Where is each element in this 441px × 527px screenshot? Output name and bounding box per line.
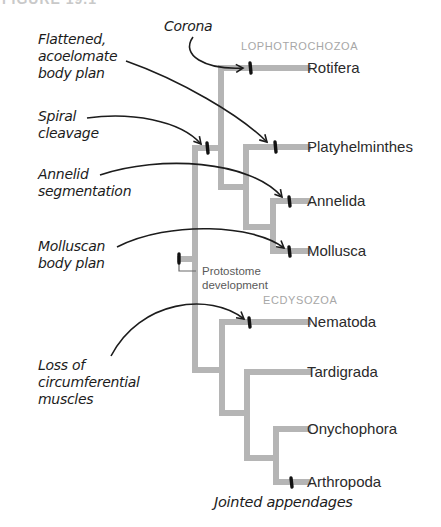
- annotation-loss-circumferential-muscles: Loss of circumferential muscles: [38, 357, 140, 408]
- arrow-spiral: [87, 116, 201, 144]
- marker-molluscan: [289, 247, 290, 256]
- taxon-nematoda: Nematoda: [307, 313, 376, 330]
- clade-label-ecdysozoa: ECDYSOZOA: [263, 294, 337, 306]
- annotation-spiral-cleavage: Spiral cleavage: [38, 108, 99, 142]
- annotation-annelid-segmentation: Annelid segmentation: [38, 166, 131, 200]
- marker-flattened: [275, 142, 276, 152]
- arrow-flattened: [126, 61, 267, 142]
- annotation-molluscan-body-plan: Molluscan body plan: [38, 238, 105, 272]
- annelid-line-2: segmentation: [38, 183, 131, 200]
- annotation-flattened: Flattened, acoelomate body plan: [38, 31, 117, 82]
- molluscan-line-1: Molluscan: [38, 238, 105, 255]
- spiral-line-2: cleavage: [38, 125, 99, 142]
- marker-corona: [250, 63, 251, 73]
- taxon-rotifera: Rotifera: [307, 59, 360, 76]
- loss-line-2: circumferential: [38, 374, 140, 391]
- flattened-line-1: Flattened,: [38, 31, 117, 48]
- protostome-line-1: Protostome: [202, 264, 268, 278]
- annotation-corona: Corona: [164, 18, 212, 35]
- clade-label-lophotrochozoa: LOPHOTROCHOZOA: [241, 40, 358, 52]
- spiral-line-1: Spiral: [38, 108, 99, 125]
- loss-line-1: Loss of: [38, 357, 140, 374]
- protostome-line-2: development: [202, 278, 268, 292]
- flattened-line-3: body plan: [38, 65, 117, 82]
- arrow-corona: [190, 37, 243, 68]
- annelid-line-1: Annelid: [38, 166, 131, 183]
- marker-loss-muscles: [249, 318, 250, 327]
- taxon-platyhelminthes: Platyhelminthes: [307, 138, 413, 155]
- marker-annelid: [289, 197, 290, 206]
- taxon-arthropoda: Arthropoda: [307, 473, 381, 490]
- taxon-annelida: Annelida: [307, 192, 365, 209]
- annotation-jointed-appendages: Jointed appendages: [214, 494, 353, 511]
- protostome-development-label: Protostome development: [202, 264, 268, 292]
- arrow-molluscan: [117, 229, 284, 248]
- molluscan-line-2: body plan: [38, 255, 105, 272]
- marker-jointed: [291, 478, 292, 487]
- marker-spiral-cleavage: [207, 143, 208, 153]
- flattened-line-2: acoelomate: [38, 48, 117, 65]
- taxon-onychophora: Onychophora: [307, 420, 397, 437]
- taxon-mollusca: Mollusca: [307, 242, 366, 259]
- taxon-tardigrada: Tardigrada: [307, 363, 378, 380]
- loss-line-3: muscles: [38, 391, 140, 408]
